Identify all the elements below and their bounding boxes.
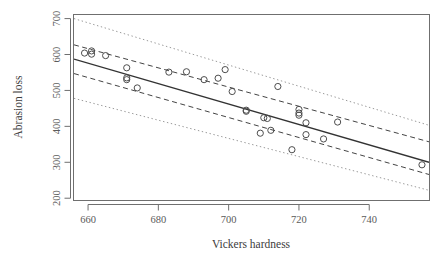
x-axis-tick-label: 700 [221,214,237,225]
x-axis-title: Vickers hardness [212,238,291,250]
y-axis-title: Abrasion loss [12,75,24,138]
x-axis-tick-label: 660 [80,214,96,225]
x-axis-tick-label: 720 [291,214,307,225]
y-axis-tick-label: 500 [51,83,62,99]
x-axis-tick-label: 680 [150,214,166,225]
y-axis-tick-label: 600 [51,47,62,63]
y-axis-tick-label: 300 [51,154,62,170]
chart-canvas: 200300400500600700 660680700720740 Vicke… [0,0,448,270]
figure-background [0,0,448,270]
x-axis-tick-label: 740 [361,214,377,225]
y-axis-tick-label: 400 [51,118,62,134]
scatter-plot-figure: 200300400500600700 660680700720740 Vicke… [0,0,448,270]
y-axis-tick-label: 200 [51,190,62,206]
y-axis-tick-label: 700 [51,11,62,27]
